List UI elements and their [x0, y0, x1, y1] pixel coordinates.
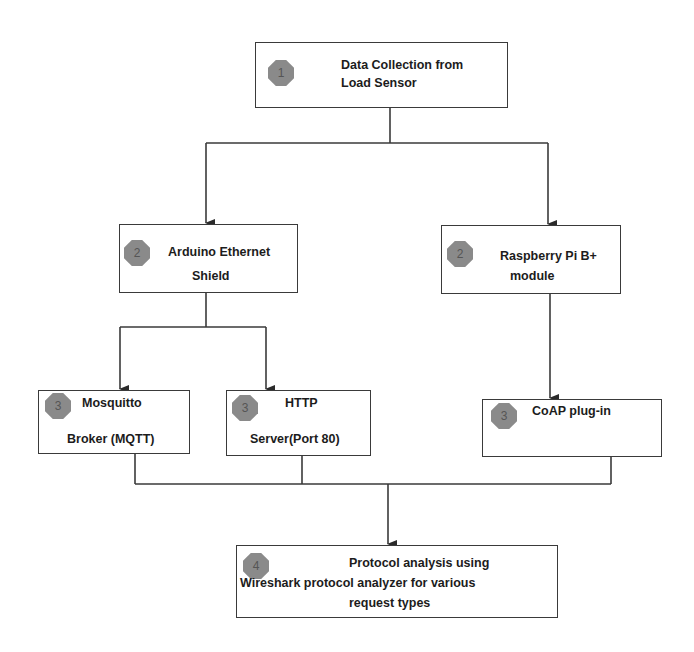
node-label: CoAP plug-in [532, 401, 611, 421]
node-label: Mosquitto [82, 393, 142, 413]
node-label: Protocol analysis using [349, 553, 489, 573]
node-label: Shield [192, 266, 230, 286]
node-label: module [510, 266, 554, 286]
node-label: Wireshark protocol analyzer for various [240, 573, 475, 593]
node-label: HTTP [285, 393, 318, 413]
node-label: Broker (MQTT) [67, 429, 155, 449]
step-number: 1 [278, 66, 285, 80]
step-number: 3 [242, 401, 249, 415]
node-label: Server(Port 80) [250, 429, 340, 449]
node-label: Data Collection from [341, 55, 463, 75]
node-label: Arduino Ethernet [168, 242, 270, 262]
step-number: 3 [55, 399, 62, 413]
node-label: request types [349, 593, 430, 613]
step-number: 4 [253, 559, 260, 573]
step-number: 2 [457, 247, 464, 261]
node-label: Raspberry Pi B+ [500, 246, 597, 266]
node-label: Load Sensor [341, 73, 417, 93]
step-number: 3 [501, 409, 508, 423]
step-number: 2 [134, 246, 141, 260]
